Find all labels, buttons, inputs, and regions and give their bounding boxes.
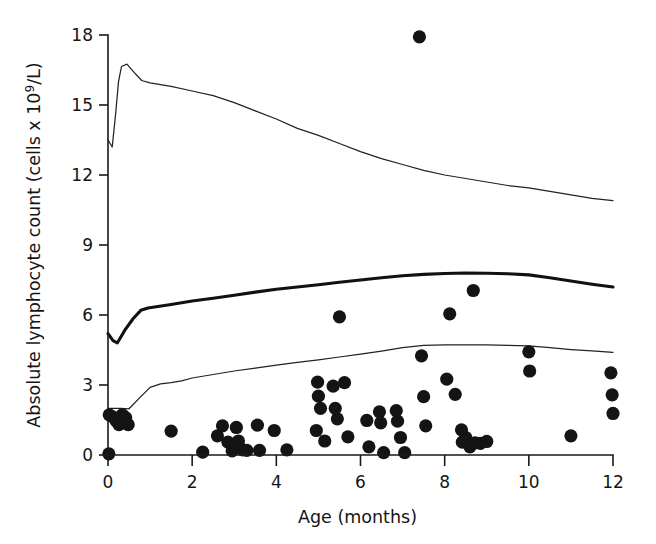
y-tick-label: 12 bbox=[71, 165, 93, 185]
reference-curves bbox=[108, 64, 613, 409]
x-tick-label: 2 bbox=[187, 472, 198, 492]
chart-page: 0369121518024681012Age (months)Absolute … bbox=[0, 0, 656, 544]
y-tick-label: 3 bbox=[82, 375, 93, 395]
data-point bbox=[102, 447, 115, 460]
data-point bbox=[419, 419, 432, 432]
y-tick-label: 0 bbox=[82, 445, 93, 465]
y-tick-label: 18 bbox=[71, 25, 93, 45]
data-point bbox=[338, 376, 351, 389]
data-point bbox=[312, 390, 325, 403]
data-point bbox=[398, 446, 411, 459]
data-point bbox=[440, 373, 453, 386]
data-point bbox=[327, 380, 340, 393]
data-point bbox=[311, 376, 324, 389]
data-point bbox=[310, 424, 323, 437]
x-tick-label: 8 bbox=[439, 472, 450, 492]
x-tick-label: 10 bbox=[518, 472, 540, 492]
scatter-chart: 0369121518024681012Age (months)Absolute … bbox=[0, 0, 656, 544]
data-point bbox=[606, 388, 619, 401]
axes bbox=[99, 35, 613, 466]
data-point bbox=[374, 416, 387, 429]
reference-curve-median bbox=[108, 273, 613, 343]
data-point bbox=[480, 435, 493, 448]
data-point bbox=[377, 446, 390, 459]
data-point bbox=[165, 425, 178, 438]
data-point bbox=[564, 429, 577, 442]
data-point bbox=[391, 415, 404, 428]
data-point bbox=[362, 440, 375, 453]
data-point bbox=[314, 402, 327, 415]
data-point bbox=[333, 310, 346, 323]
data-point bbox=[522, 345, 535, 358]
x-tick-label: 12 bbox=[602, 472, 624, 492]
y-tick-label: 9 bbox=[82, 235, 93, 255]
x-tick-label: 4 bbox=[271, 472, 282, 492]
data-point bbox=[360, 414, 373, 427]
data-point bbox=[413, 30, 426, 43]
reference-curve-upper bbox=[108, 64, 613, 201]
y-axis-title: Absolute lymphocyte count (cells x 109/L… bbox=[23, 62, 44, 427]
data-point bbox=[449, 388, 462, 401]
data-point bbox=[417, 390, 430, 403]
data-point bbox=[606, 407, 619, 420]
data-point bbox=[216, 419, 229, 432]
x-tick-label: 0 bbox=[103, 472, 114, 492]
data-point bbox=[318, 434, 331, 447]
data-point bbox=[230, 421, 243, 434]
data-point bbox=[443, 307, 456, 320]
data-point bbox=[268, 424, 281, 437]
data-point bbox=[341, 430, 354, 443]
data-point bbox=[196, 446, 209, 459]
axis-lines bbox=[108, 35, 613, 455]
x-tick-label: 6 bbox=[355, 472, 366, 492]
data-point bbox=[467, 284, 480, 297]
y-tick-label: 6 bbox=[82, 305, 93, 325]
data-points bbox=[102, 30, 619, 460]
x-axis-title: Age (months) bbox=[298, 507, 417, 527]
reference-curve-lower bbox=[108, 345, 613, 409]
data-point bbox=[122, 418, 135, 431]
y-tick-label: 15 bbox=[71, 95, 93, 115]
data-point bbox=[331, 412, 344, 425]
data-point bbox=[604, 366, 617, 379]
data-point bbox=[394, 431, 407, 444]
data-point bbox=[523, 364, 536, 377]
data-point bbox=[251, 419, 264, 432]
data-point bbox=[415, 349, 428, 362]
